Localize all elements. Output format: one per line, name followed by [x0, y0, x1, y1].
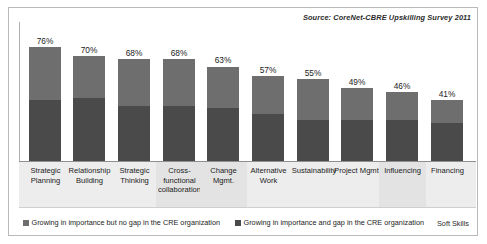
bar-value-label: 68% [171, 49, 188, 57]
bar-segment-no-gap[interactable] [163, 59, 195, 106]
bar-segment-gap[interactable] [29, 100, 61, 162]
bar-value-label: 63% [215, 56, 232, 64]
soft-skills-note: Soft Skills [437, 219, 469, 228]
category-label: Relationship Building [66, 162, 113, 207]
category-label: Change Mgmt. [200, 162, 247, 207]
bar-segment-gap[interactable] [207, 108, 239, 162]
bar-segment-gap[interactable] [118, 106, 150, 162]
bar-segment-no-gap[interactable] [252, 76, 284, 114]
bar-group: 41% [431, 90, 463, 162]
legend-swatch-icon [235, 220, 241, 226]
bar-segment-no-gap[interactable] [29, 47, 61, 100]
bar-value-label: 68% [126, 49, 143, 57]
plot-area: 76%70%68%68%63%57%55%49%46%41% [9, 38, 477, 162]
category-label: Influencing [379, 162, 426, 207]
chart-legend: Growing in importance but no gap in the … [9, 211, 477, 235]
chart-frame: Source: CoreNet-CBRE Upskilling Survey 2… [8, 7, 478, 236]
bar-segment-gap[interactable] [73, 98, 105, 162]
bar-stack[interactable] [252, 76, 284, 162]
legend-label: Growing in importance but no gap in the … [32, 219, 221, 226]
bar-stack[interactable] [118, 59, 150, 162]
category-label: Project Mgmt. [334, 162, 381, 207]
bar-segment-no-gap[interactable] [73, 56, 105, 98]
legend-item-no-gap[interactable]: Growing in importance but no gap in the … [23, 219, 220, 226]
bar-value-label: 57% [260, 66, 277, 74]
bar-segment-gap[interactable] [341, 120, 373, 162]
bar-stack[interactable] [73, 56, 105, 162]
bar-segment-no-gap[interactable] [341, 88, 373, 120]
bar-segment-gap[interactable] [163, 106, 195, 162]
bar-stack[interactable] [431, 100, 463, 162]
category-label: Cross-functional collaboration [156, 162, 203, 207]
bar-segment-no-gap[interactable] [207, 67, 239, 108]
bar-stack[interactable] [386, 92, 418, 162]
bar-segment-no-gap[interactable] [386, 92, 418, 119]
bar-value-label: 55% [305, 69, 322, 77]
category-label: Financing [424, 162, 471, 207]
bar-value-label: 41% [439, 90, 456, 98]
bar-segment-gap[interactable] [297, 120, 329, 162]
bar-stack[interactable] [341, 88, 373, 162]
bar-stack[interactable] [29, 47, 61, 162]
bar-value-label: 46% [394, 82, 411, 90]
bar-value-label: 49% [349, 78, 366, 86]
category-label-band: Strategic PlanningRelationship BuildingS… [19, 162, 476, 208]
bar-segment-gap[interactable] [431, 123, 463, 162]
legend-item-gap[interactable]: Growing in importance and gap in the CRE… [235, 219, 424, 226]
bar-group: 68% [163, 49, 195, 162]
bar-segment-no-gap[interactable] [297, 79, 329, 120]
bar-group: 57% [252, 66, 284, 162]
bar-group: 55% [297, 69, 329, 162]
bar-group: 49% [341, 78, 373, 162]
legend-swatch-icon [23, 220, 29, 226]
bar-group: 46% [386, 82, 418, 162]
bar-stack[interactable] [163, 59, 195, 162]
category-label: Strategic Thinking [111, 162, 158, 207]
bar-segment-no-gap[interactable] [118, 59, 150, 106]
bar-group: 70% [73, 46, 105, 162]
bar-segment-gap[interactable] [252, 114, 284, 162]
bar-group: 76% [29, 37, 61, 162]
bar-stack[interactable] [207, 67, 239, 162]
legend-label: Growing in importance and gap in the CRE… [244, 219, 425, 226]
bar-stack[interactable] [297, 79, 329, 162]
source-note: Source: CoreNet-CBRE Upskilling Survey 2… [303, 13, 471, 22]
bar-group: 68% [118, 49, 150, 162]
category-label: Alternative Work [245, 162, 292, 207]
category-label: Sustainability [288, 162, 340, 207]
bar-segment-gap[interactable] [386, 120, 418, 162]
bar-segment-no-gap[interactable] [431, 100, 463, 123]
category-label: Strategic Planning [22, 162, 69, 207]
bar-value-label: 76% [37, 37, 54, 45]
bar-group: 63% [207, 56, 239, 162]
bar-value-label: 70% [81, 46, 98, 54]
